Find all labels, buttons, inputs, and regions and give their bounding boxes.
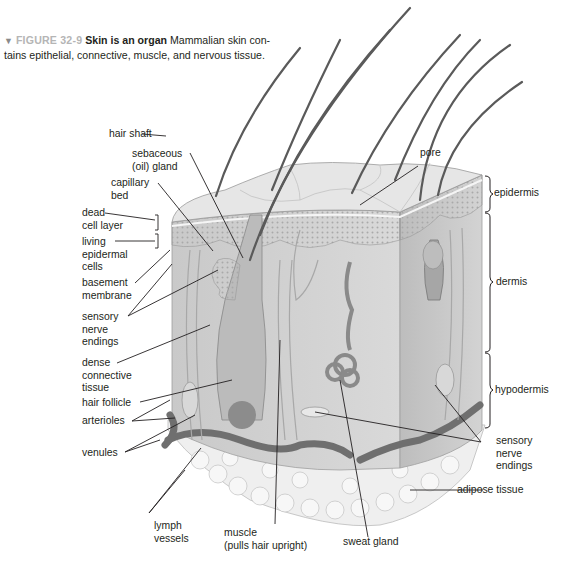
label-hypodermis: hypodermis <box>495 384 549 397</box>
label-basement-membrane: basement membrane <box>82 277 132 302</box>
label-living-epidermal-cells: living epidermal cells <box>82 236 128 274</box>
caption-body-line2: tains epithelial, connective, muscle, an… <box>4 49 265 61</box>
label-line: sensory <box>82 311 118 322</box>
label-line: sebaceous <box>132 148 182 159</box>
label-line: (pulls hair upright) <box>224 540 307 551</box>
label-sweat-gland: sweat gland <box>343 536 398 549</box>
label-pore: pore <box>420 147 441 160</box>
figure-caption: ▼ FIGURE 32-9 Skin is an organ Mammalian… <box>4 34 344 62</box>
caption-body-line1: Mammalian skin con- <box>170 34 270 46</box>
label-line: membrane <box>82 290 132 301</box>
label-line: muscle <box>224 527 257 538</box>
label-lymph-vessels: lymph vessels <box>154 520 189 545</box>
label-hair-shaft: hair shaft <box>109 128 152 141</box>
label-line: lymph <box>154 520 182 531</box>
label-line: sensory <box>496 435 532 446</box>
label-line: cell layer <box>82 220 123 231</box>
figure-number: FIGURE 32-9 <box>16 34 82 46</box>
label-line: basement <box>82 277 128 288</box>
label-dead-cell-layer: dead cell layer <box>82 207 123 232</box>
label-line: dead <box>82 207 105 218</box>
layer-braces <box>485 176 493 428</box>
label-epidermis: epidermis <box>494 187 539 200</box>
label-sensory-nerve-endings-right: sensory nerve endings <box>496 435 532 473</box>
label-hair-follicle: hair follicle <box>82 397 131 410</box>
label-venules: venules <box>82 447 118 460</box>
label-sebaceous-gland: sebaceous (oil) gland <box>132 148 182 173</box>
label-line: epidermal <box>82 249 128 260</box>
label-line: vessels <box>154 533 189 544</box>
label-line: connective <box>82 370 132 381</box>
label-capillary-bed: capillary bed <box>111 177 149 202</box>
label-line: endings <box>82 336 118 347</box>
triangle-marker-icon: ▼ <box>4 36 13 46</box>
label-line: endings <box>496 460 532 471</box>
label-line: capillary <box>111 177 149 188</box>
label-line: (oil) gland <box>132 161 178 172</box>
label-line: living <box>82 236 106 247</box>
label-arterioles: arterioles <box>82 415 125 428</box>
label-line: bed <box>111 190 128 201</box>
label-line: tissue <box>82 382 109 393</box>
label-sensory-nerve-endings-left: sensory nerve endings <box>82 311 118 349</box>
figure-title: Skin is an organ <box>85 34 167 46</box>
label-dermis: dermis <box>496 276 527 289</box>
label-line: nerve <box>82 324 108 335</box>
label-dense-connective-tissue: dense connective tissue <box>82 357 132 395</box>
label-adipose-tissue: adipose tissue <box>457 484 523 497</box>
label-muscle: muscle (pulls hair upright) <box>224 527 307 552</box>
label-line: cells <box>82 261 103 272</box>
label-line: dense <box>82 357 110 368</box>
label-line: nerve <box>496 448 522 459</box>
